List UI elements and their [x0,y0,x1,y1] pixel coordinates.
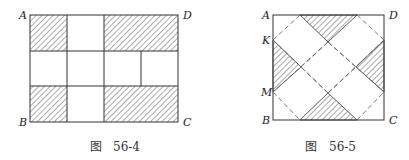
diagram-canvas: A D B C 图 56-4 A [0,0,409,160]
vertex-label-c: C [183,116,192,129]
caption-prefix: 图 [90,140,102,154]
vertex-label-d: D [388,9,398,22]
caption-number: 56-5 [329,140,356,154]
vertex-label-d: D [182,9,192,22]
caption-prefix: 图 [305,140,317,154]
vertex-label-m: M [260,86,273,99]
vertex-label-b: B [261,114,270,127]
hatched-bottom-right [104,86,178,122]
figure-56-4: A D B C 图 56-4 [18,9,192,154]
caption-number: 56-4 [113,140,140,154]
figure-56-5: A D K M B C 图 56-5 [260,9,398,154]
hatched-top-left [30,15,67,51]
hatched-bottom-left [30,86,67,122]
hatched-triangle-right [356,40,384,92]
vertex-label-a: A [261,9,270,22]
hatched-triangle-top [300,15,357,42]
vertex-label-k: K [261,34,271,47]
vertex-label-a: A [18,9,27,22]
hatched-top-right [104,15,178,51]
hatched-triangle-bottom [300,93,357,120]
vertex-label-c: C [389,114,398,127]
hatched-triangle-left [273,40,301,92]
vertex-label-b: B [18,116,27,129]
